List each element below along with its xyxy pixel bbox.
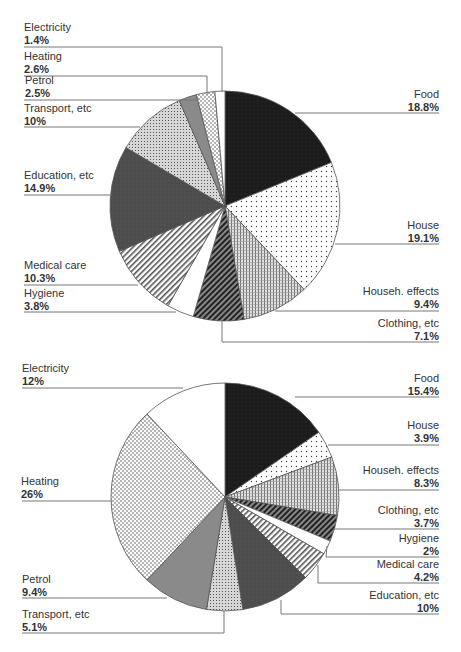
label-house-top: House 19.1% <box>407 219 439 245</box>
pie-chart-bottom <box>111 383 339 611</box>
label-education-bottom: Education, etc 10% <box>369 589 439 615</box>
label-name: Househ. effects <box>363 285 439 298</box>
label-name: Hygiene <box>24 287 64 300</box>
label-value: 3.9% <box>407 432 439 445</box>
label-electricity-bottom: Electricity 12% <box>22 362 69 388</box>
label-food-top: Food 18.8% <box>408 88 439 114</box>
label-value: 2% <box>399 545 439 558</box>
label-petrol-top: Petrol 2.5% <box>25 74 54 100</box>
label-value: 2.5% <box>25 87 54 100</box>
label-value: 9.4% <box>22 586 51 599</box>
label-house-bottom: House 3.9% <box>407 419 439 445</box>
label-name: Hygiene <box>399 532 439 545</box>
label-name: House <box>407 419 439 432</box>
label-value: 1.4% <box>24 34 71 47</box>
label-heating-bottom: Heating 26% <box>21 475 59 501</box>
label-name: Clothing, etc <box>378 504 439 517</box>
label-petrol-bottom: Petrol 9.4% <box>22 573 51 599</box>
label-value: 7.1% <box>378 330 439 343</box>
label-value: 9.4% <box>363 298 439 311</box>
label-name: Medical care <box>377 558 439 571</box>
label-electricity-top: Electricity 1.4% <box>24 21 71 47</box>
label-hygiene-bottom: Hygiene 2% <box>399 532 439 558</box>
label-heating-top: Heating 2.6% <box>24 50 62 76</box>
label-medical-bottom: Medical care 4.2% <box>377 558 439 584</box>
label-value: 5.1% <box>22 621 89 634</box>
label-name: Petrol <box>25 74 54 87</box>
label-name: Food <box>408 88 439 101</box>
label-value: 18.8% <box>408 101 439 114</box>
label-value: 15.4% <box>408 385 439 398</box>
pie-chart-top <box>110 91 340 321</box>
label-name: Househ. effects <box>363 464 439 477</box>
label-value: 14.9% <box>24 182 94 195</box>
label-value: 3.8% <box>24 300 64 313</box>
label-hygiene-top: Hygiene 3.8% <box>24 287 64 313</box>
label-value: 19.1% <box>407 232 439 245</box>
label-value: 10% <box>24 115 91 128</box>
label-name: Medical care <box>24 259 86 272</box>
label-name: Electricity <box>22 362 69 375</box>
label-value: 4.2% <box>377 571 439 584</box>
label-househ-top: Househ. effects 9.4% <box>363 285 439 311</box>
label-education-top: Education, etc 14.9% <box>24 169 94 195</box>
label-value: 10% <box>369 602 439 615</box>
label-name: Clothing, etc <box>378 317 439 330</box>
label-name: Food <box>408 372 439 385</box>
label-food-bottom: Food 15.4% <box>408 372 439 398</box>
label-clothing-bottom: Clothing, etc 3.7% <box>378 504 439 530</box>
label-name: Petrol <box>22 573 51 586</box>
label-clothing-top: Clothing, etc 7.1% <box>378 317 439 343</box>
label-value: 10.3% <box>24 272 86 285</box>
label-medical-top: Medical care 10.3% <box>24 259 86 285</box>
label-name: Heating <box>24 50 62 63</box>
label-name: Transport, etc <box>22 608 89 621</box>
label-name: Heating <box>21 475 59 488</box>
label-value: 26% <box>21 488 59 501</box>
label-name: Education, etc <box>369 589 439 602</box>
label-name: Electricity <box>24 21 71 34</box>
label-value: 3.7% <box>378 517 439 530</box>
label-name: Education, etc <box>24 169 94 182</box>
label-transport-bottom: Transport, etc 5.1% <box>22 608 89 634</box>
label-value: 8.3% <box>363 477 439 490</box>
label-name: House <box>407 219 439 232</box>
label-transport-top: Transport, etc 10% <box>24 102 91 128</box>
label-value: 12% <box>22 375 69 388</box>
label-househ-bottom: Househ. effects 8.3% <box>363 464 439 490</box>
label-name: Transport, etc <box>24 102 91 115</box>
